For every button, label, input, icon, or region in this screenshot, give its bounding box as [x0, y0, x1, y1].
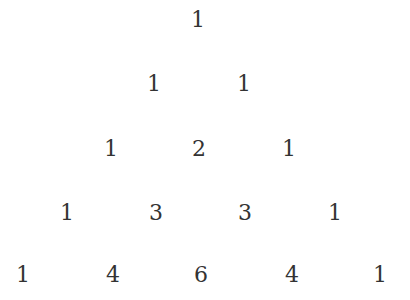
- triangle-entry: 4: [98, 264, 128, 286]
- triangle-entry: 1: [96, 138, 126, 160]
- triangle-entry: 1: [139, 73, 169, 95]
- triangle-entry: 1: [274, 138, 304, 160]
- triangle-entry: 3: [141, 202, 171, 224]
- triangle-entry: 2: [184, 138, 214, 160]
- triangle-entry: 4: [277, 264, 307, 286]
- triangle-entry: 1: [365, 264, 395, 286]
- triangle-entry: 1: [183, 9, 213, 31]
- triangle-entry: 1: [229, 73, 259, 95]
- triangle-entry: 1: [8, 264, 38, 286]
- triangle-entry: 3: [230, 202, 260, 224]
- triangle-entry: 6: [186, 264, 216, 286]
- triangle-entry: 1: [320, 202, 350, 224]
- triangle-entry: 1: [52, 202, 82, 224]
